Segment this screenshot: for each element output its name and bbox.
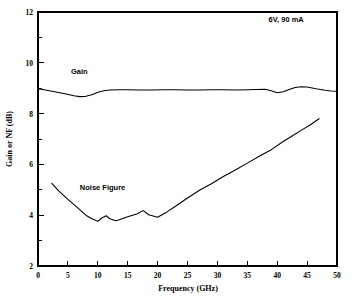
y-tick-label: 6 [29, 160, 33, 169]
chart-figure: 05101520253035404550 24681012 GainNoise … [0, 0, 352, 305]
x-tick-label: 0 [36, 271, 40, 280]
chart-background [0, 0, 352, 305]
x-tick-label: 45 [303, 271, 311, 280]
y-tick-label: 8 [29, 110, 33, 119]
x-tick-label: 40 [273, 271, 281, 280]
x-axis-title: Frequency (GHz) [158, 284, 218, 293]
annotations-layer: 6V, 90 mA [269, 15, 305, 24]
y-axis-title: Gain or NF (dB) [5, 111, 14, 167]
x-tick-label: 50 [333, 271, 341, 280]
x-tick-label: 10 [94, 271, 102, 280]
x-tick-label: 35 [244, 271, 252, 280]
y-tick-label: 10 [26, 59, 34, 68]
chart-svg: 05101520253035404550 24681012 GainNoise … [0, 0, 352, 305]
x-tick-label: 25 [184, 271, 192, 280]
chart-annotation: 6V, 90 mA [269, 15, 305, 24]
x-tick-label: 20 [154, 271, 162, 280]
series-label-gain: Gain [71, 67, 88, 76]
x-tick-label: 5 [66, 271, 70, 280]
y-tick-label: 2 [29, 262, 33, 271]
series-label-noise-figure: Noise Figure [80, 183, 125, 192]
y-tick-label: 4 [29, 211, 33, 220]
x-tick-label: 30 [214, 271, 222, 280]
y-tick-label: 12 [26, 8, 34, 17]
x-tick-label: 15 [124, 271, 132, 280]
